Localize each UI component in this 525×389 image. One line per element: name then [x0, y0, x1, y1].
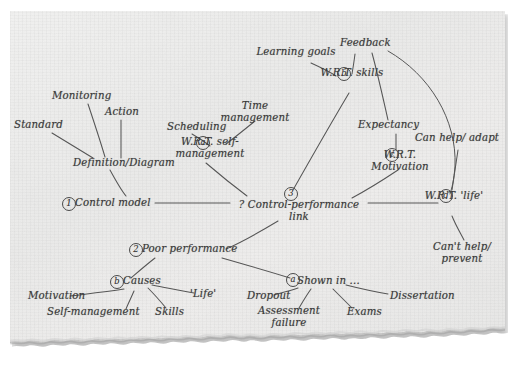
edge-monitoring-definition [88, 104, 105, 157]
marker-c-circle: c [385, 148, 399, 162]
node-skills: Skills [155, 306, 184, 318]
edge-definition-controlmodel [110, 170, 126, 196]
edge-standard-definition [52, 133, 93, 158]
marker-d-circle: d [439, 189, 453, 203]
node-cant-help-prevent: Can't help/ prevent [417, 241, 507, 264]
marker-a-circle: a [196, 136, 210, 150]
node-self-management: Self-management [47, 306, 140, 318]
node-wrt-skills: W.R.T. skills [307, 67, 397, 79]
node-life: 'Life' [190, 288, 216, 300]
node-learning-goals: Learning goals [251, 46, 341, 58]
node-poor-performance: Poor performance [142, 243, 237, 255]
node-wrt-self-management: W.R.T. self-management [165, 136, 255, 159]
marker-2-circle: 2 [129, 243, 143, 257]
node-feedback: Feedback [340, 37, 391, 49]
node-dropout: Dropout [247, 290, 291, 302]
marker-3-circle: 3 [284, 187, 298, 201]
edge-wrtmotivation-controlperf [352, 170, 398, 198]
node-motivation: Motivation [28, 290, 85, 302]
edge-wrtskills-controlperf [293, 93, 349, 190]
edge-poorperf-showin [222, 258, 290, 278]
node-monitoring: Monitoring [52, 90, 111, 102]
node-assessment-failure: Assessment failure [244, 305, 334, 328]
node-definition-diagram: Definition/Diagram [73, 157, 175, 169]
marker-1-circle: 1 [62, 197, 76, 211]
node-wrt-motivation: W.R.T. Motivation [355, 149, 445, 172]
concept-map-scene: Standard Monitoring Action Definition/Di… [0, 0, 525, 389]
edge-wrtlife-canthelp [452, 216, 464, 240]
node-action: Action [105, 106, 139, 118]
node-shown-in: Shown in ... [297, 275, 360, 287]
node-control-performance-link: ? Control-performance link [229, 199, 369, 222]
marker-a2-circle: a [286, 273, 300, 287]
node-exams: Exams [347, 306, 382, 318]
node-time-management: Time management [210, 100, 300, 123]
node-wrt-life: W.R.T. 'life' [409, 190, 499, 202]
edge-causes-skills [148, 288, 166, 308]
edge-wrtself-controlperf [206, 163, 247, 196]
node-causes: Causes [123, 275, 161, 287]
node-dissertation: Dissertation [390, 290, 455, 302]
node-standard: Standard [14, 119, 63, 131]
marker-b2-circle: b [110, 275, 124, 289]
node-control-model: Control model [75, 197, 151, 209]
marker-b-circle: b [337, 67, 351, 81]
node-expectancy: Expectancy [358, 119, 419, 131]
edge-feedback-expectancy [372, 53, 388, 120]
node-can-help-adapt: Can help/ adapt [412, 132, 502, 144]
